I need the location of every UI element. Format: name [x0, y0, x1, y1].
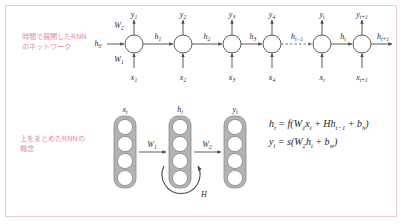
unit-hidden-4 [172, 170, 187, 185]
label-h3: h3 [250, 32, 257, 42]
rnn-diagram: h0 W2 W1 y1 x1 h1 y2 x2 [6, 6, 398, 218]
unit-input-4 [117, 170, 132, 185]
label-ht-1: ht−1 [291, 32, 303, 42]
label-y3: y3 [228, 10, 236, 20]
figure-canvas: 時間で展開したRNN のネットワーク 上をまとめたRNNの 概念 h0 W2 W… [0, 0, 404, 224]
folded-rnn-group: xt W1 ht W2 yt [114, 105, 246, 199]
label-x1: x1 [130, 73, 138, 83]
label-layer-input: xt [121, 105, 128, 115]
rnn-node-2 [174, 35, 192, 53]
label-w1-folded: W1 [147, 140, 157, 150]
rnn-node-3 [223, 35, 241, 53]
rnn-node-t-plus-1 [353, 35, 371, 53]
unit-output-2 [227, 136, 242, 151]
label-h0: h0 [95, 39, 102, 49]
rnn-node-t [313, 35, 331, 53]
unit-hidden-1 [172, 119, 187, 134]
unit-hidden-2 [172, 136, 187, 151]
label-h1: h1 [155, 32, 162, 42]
equation-output: yt = s(W2ht + bw) [269, 136, 337, 149]
unit-output-1 [227, 119, 242, 134]
label-recurrent-h: H [200, 190, 208, 199]
label-xt-plus-1: xt+1 [355, 73, 368, 83]
label-yt: yt [318, 10, 325, 20]
label-w1-top: W1 [114, 55, 124, 65]
unit-hidden-3 [172, 153, 187, 168]
label-x3: x3 [228, 73, 236, 83]
label-x2: x2 [179, 73, 187, 83]
label-ht: ht [340, 32, 346, 42]
label-layer-output: yt [231, 105, 238, 115]
equation-hidden-state: ht = f(W1xt + Hht−1 + bh) [269, 118, 369, 131]
label-x4: x4 [268, 73, 276, 83]
figure-border: 時間で展開したRNN のネットワーク 上をまとめたRNNの 概念 h0 W2 W… [5, 5, 397, 217]
unit-input-1 [117, 119, 132, 134]
label-ht-plus-1: ht+1 [377, 32, 389, 42]
label-w2-top: W2 [114, 21, 124, 31]
label-y1: y1 [130, 10, 138, 20]
label-yt-plus-1: yt+1 [355, 10, 368, 20]
label-y2: y2 [179, 10, 187, 20]
label-layer-hidden: ht [177, 105, 183, 115]
unit-input-3 [117, 153, 132, 168]
rnn-node-1 [125, 35, 143, 53]
unit-output-3 [227, 153, 242, 168]
label-y4: y4 [268, 10, 276, 20]
rnn-node-4 [263, 35, 281, 53]
unit-output-4 [227, 170, 242, 185]
label-h2: h2 [204, 32, 211, 42]
label-w2-folded: W2 [202, 140, 212, 150]
unit-input-2 [117, 136, 132, 151]
label-xt: xt [318, 73, 325, 83]
unrolled-rnn-group: h0 W2 W1 y1 x1 h1 y2 x2 [95, 10, 392, 83]
